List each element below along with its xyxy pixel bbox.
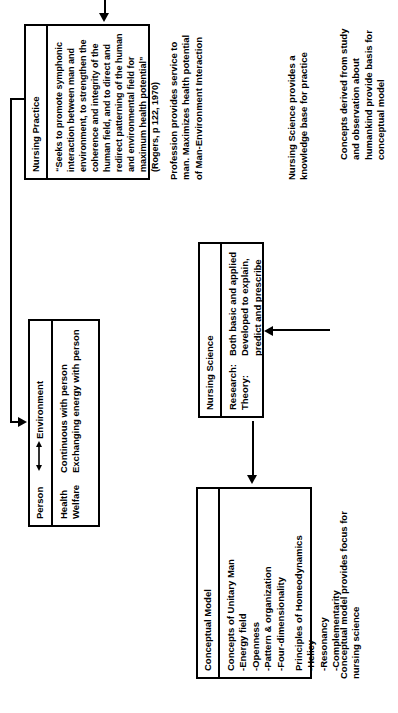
unitary-man-item: -Four-dimensionality <box>275 495 287 671</box>
concepts-of-unitary-man-title: Concepts of Unitary Man <box>225 495 237 671</box>
principles-of-homeodynamics-title: Principles of Homeodynamics <box>293 495 305 671</box>
conceptual-model-box: Conceptual Model Concepts of Unitary Man… <box>196 487 312 679</box>
conceptual-model-focus-label: Conceptual model provides focus for nurs… <box>338 511 363 679</box>
nursing-science-row: Research: Both basic and applied <box>227 250 239 410</box>
nursing-science-knowledge-label: Nursing Science provides a knowledge bas… <box>286 28 311 180</box>
research-value: Both basic and applied <box>227 250 239 356</box>
bidirectional-arrow-svg <box>34 441 44 471</box>
profession-service-label: Profession provides service to man. Maxi… <box>168 28 205 180</box>
unitary-man-item: -Pattern & organization <box>262 495 274 671</box>
arrowhead-up-to-science <box>264 326 273 336</box>
conceptual-model-body: Concepts of Unitary Man -Energy field -O… <box>220 489 348 677</box>
person-label: Person <box>34 473 47 519</box>
concepts-derived-label: Concepts derived from study and observat… <box>338 18 388 160</box>
nursing-practice-body: “Seeks to promote symphonic interaction … <box>48 26 166 178</box>
row-right-continuous: Continuous with person <box>58 327 70 473</box>
unitary-man-item: -Energy field <box>237 495 249 671</box>
row-right-exchanging: Exchanging energy with person <box>70 327 82 473</box>
person-environment-row: Health Continuous with person <box>58 327 70 519</box>
row-left-welfare: Welfare <box>70 473 82 519</box>
conceptual-model-header: Conceptual Model <box>198 489 220 677</box>
unitary-man-item: -Openness <box>250 495 262 671</box>
nursing-science-header: Nursing Science <box>200 244 222 416</box>
homeodynamics-item: -Helicy <box>305 495 317 671</box>
nursing-practice-header: Nursing Practice <box>26 26 48 178</box>
person-environment-box: Person Environment Health Continuous wit… <box>28 319 100 527</box>
person-environment-body: Health Continuous with person Welfare Ex… <box>53 321 88 525</box>
arrowhead-down-to-person-env <box>18 417 27 427</box>
nursing-science-box: Nursing Science Research: Both basic and… <box>198 242 264 418</box>
nursing-science-body: Research: Both basic and applied Theory:… <box>222 244 269 416</box>
environment-label: Environment <box>34 327 47 439</box>
bidirectional-arrow-icon <box>34 439 47 473</box>
row-left-health: Health <box>58 473 70 519</box>
research-label: Research: <box>227 356 239 410</box>
homeodynamics-item: -Resonancy <box>318 495 330 671</box>
person-environment-header: Person Environment <box>30 321 53 525</box>
nursing-science-row: Theory: Developed to explain, predict an… <box>239 250 264 410</box>
person-environment-row: Welfare Exchanging energy with person <box>70 327 82 519</box>
connector-model-to-science <box>272 329 330 331</box>
connector-concepts-to-model <box>252 421 254 475</box>
connector-practice-to-person-horizontal <box>10 98 12 423</box>
nursing-practice-box: Nursing Practice “Seeks to promote symph… <box>24 24 150 180</box>
connector-practice-up <box>10 98 24 100</box>
connector-science-to-practice <box>104 0 106 13</box>
arrowhead-left-to-practice <box>99 13 109 22</box>
arrowhead-left-to-model <box>247 475 257 484</box>
theory-value: Developed to explain, predict and prescr… <box>239 250 264 356</box>
rotated-diagram-canvas: Person Environment Health Continuous wit… <box>0 0 398 713</box>
diagram-canvas-frame: Person Environment Health Continuous wit… <box>0 0 398 713</box>
theory-label: Theory: <box>239 356 264 410</box>
